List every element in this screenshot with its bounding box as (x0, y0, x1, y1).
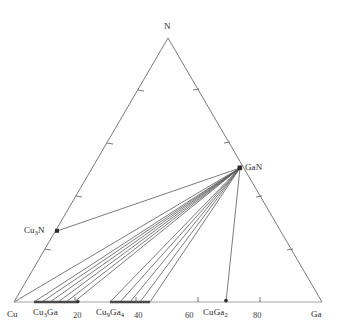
compound-cu9ga4-sub2: 4 (121, 311, 124, 318)
tick-label-60: 60 (185, 311, 194, 320)
tick-left (107, 143, 113, 144)
compound-cu9ga4-mid: Ga (110, 307, 121, 317)
tie-line (74, 168, 240, 302)
tie-line (110, 168, 240, 302)
compound-cu3n-tail: N (38, 225, 45, 235)
compound-gan-text: GaN (245, 162, 262, 172)
tie-line (150, 168, 240, 302)
tie-line (42, 168, 240, 302)
compound-label-cu3ga: Cu3Ga (33, 308, 58, 317)
left-axis-ticks (45, 90, 144, 250)
tie-line (58, 168, 240, 302)
compound-cu3ga-main: Cu (33, 307, 44, 317)
tick-left (138, 90, 144, 91)
vertex-ga-text: Ga (311, 309, 322, 319)
node-marker-gan (238, 166, 243, 171)
compound-cuga2-main: CuGa (203, 307, 224, 317)
compound-cu3n-main: Cu (24, 225, 35, 235)
compound-cu3ga-tail: Ga (47, 307, 58, 317)
compound-label-gan: GaN (245, 163, 262, 172)
tie-line (14, 168, 240, 302)
tick-label-80: 80 (253, 311, 262, 320)
tie-line (130, 168, 240, 302)
tie-line (66, 168, 240, 302)
vertex-label-cu: Cu (7, 310, 18, 319)
diagram-canvas (0, 0, 339, 334)
vertex-label-n: N (164, 22, 171, 31)
tie-line (140, 168, 240, 302)
compound-cu3ga-sub: 3 (44, 311, 47, 318)
tick-40-text: 40 (134, 310, 143, 320)
tie-line-gan-cuga2 (226, 168, 240, 302)
compound-label-cu3n: Cu3N (24, 226, 45, 235)
tie-line (34, 168, 240, 302)
vertex-cu-text: Cu (7, 309, 18, 319)
tie-line (120, 168, 240, 302)
triangle-edge-cu-n (14, 38, 168, 302)
compound-label-cu9ga4: Cu9Ga4 (96, 308, 124, 317)
compound-label-cuga2: CuGa2 (203, 308, 228, 317)
tie-line (50, 168, 240, 302)
tick-80-text: 80 (253, 310, 262, 320)
compound-cu9ga4-sub1: 9 (107, 311, 110, 318)
compound-cu3n-sub: 3 (35, 229, 38, 236)
vertex-label-ga: Ga (311, 310, 322, 319)
tick-label-40: 40 (134, 311, 143, 320)
tick-label-20: 20 (73, 311, 82, 320)
ternary-phase-diagram: N Cu Ga GaN Cu3N Cu3Ga Cu9Ga4 CuGa2 20 4… (0, 0, 339, 334)
node-marker-cuga2 (224, 299, 228, 303)
tick-20-text: 20 (73, 310, 82, 320)
compound-cu9ga4-main: Cu (96, 307, 107, 317)
tie-line-gan-cu3n (57, 168, 240, 231)
node-marker-cu3n (55, 229, 59, 233)
node-marker-cu3ga-end (76, 300, 79, 303)
tie-line-fan (14, 168, 240, 302)
vertex-n-text: N (164, 21, 171, 31)
tick-left (76, 196, 82, 197)
tick-left (45, 249, 51, 250)
compound-cuga2-sub: 2 (224, 311, 227, 318)
bottom-axis-ticks (75, 297, 260, 302)
tick-60-text: 60 (185, 310, 194, 320)
